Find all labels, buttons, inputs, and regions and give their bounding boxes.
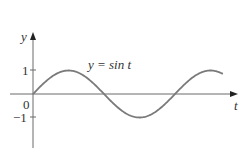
y-tick-label-1: 1 [22, 64, 29, 77]
annotation-text: y = sin t [88, 57, 131, 72]
x-axis-arrow-icon [230, 91, 238, 97]
sine-chart [0, 0, 252, 159]
y-axis-arrow-icon [30, 32, 36, 40]
curve-annotation: y = sin t [88, 58, 131, 71]
y-axis-label: y [21, 30, 27, 43]
x-axis-label: t [234, 99, 238, 112]
y-tick-label-neg1: −1 [13, 111, 27, 124]
